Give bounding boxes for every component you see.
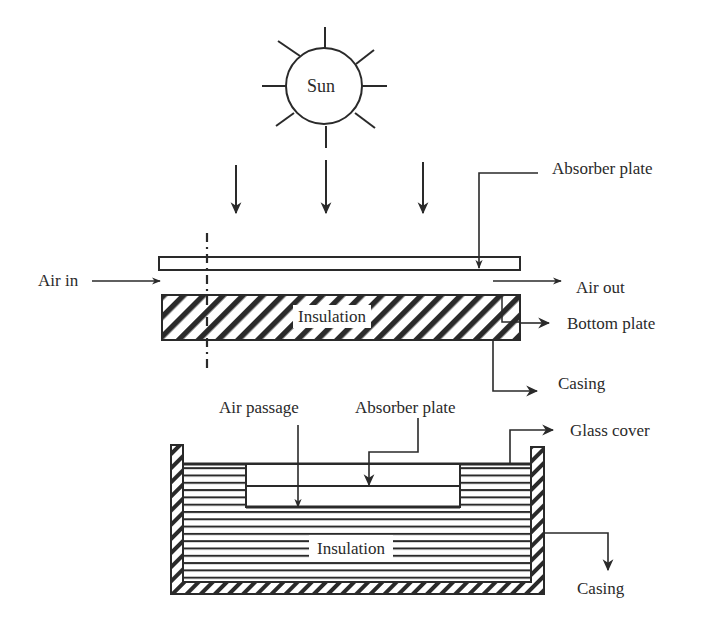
absorber-plate-leader <box>479 173 538 268</box>
air-out-label: Air out <box>576 279 625 296</box>
casing-leader-bottom <box>544 533 608 570</box>
sun-label: Sun <box>307 77 335 95</box>
air-in-label: Air in <box>38 272 78 289</box>
bottom-plate-label: Bottom plate <box>567 315 655 332</box>
absorber-plate-label-top: Absorber plate <box>552 160 653 177</box>
absorber-plate-top <box>159 257 520 270</box>
casing-label-top: Casing <box>558 375 605 392</box>
sunlight-arrows <box>236 160 423 213</box>
casing-label-section: Casing <box>577 580 624 597</box>
insulation-label-section: Insulation <box>309 535 393 562</box>
casing-leader-top <box>493 340 537 391</box>
insulation-label-top: Insulation <box>293 305 371 328</box>
air-passage-label: Air passage <box>219 399 299 416</box>
absorber-plate-label-section: Absorber plate <box>355 399 456 416</box>
glass-cover-label: Glass cover <box>570 422 650 439</box>
